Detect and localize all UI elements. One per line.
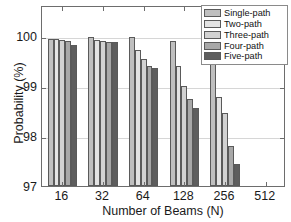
x-tick-label: 32	[95, 189, 109, 203]
x-axis-label: Number of Beams (N)	[41, 204, 285, 218]
legend-item[interactable]: Two-path	[204, 19, 285, 29]
legend-item[interactable]: Three-path	[204, 30, 285, 40]
legend-swatch	[204, 9, 221, 17]
y-axis-label: Probability (%)	[12, 28, 26, 178]
figure: 979899100 163264128256512 Probability (%…	[0, 0, 291, 222]
legend-swatch	[204, 52, 221, 60]
y-tick-label: 97	[0, 180, 37, 194]
legend-label: Five-path	[224, 51, 262, 61]
x-tick-label: 16	[54, 189, 68, 203]
legend-swatch	[204, 31, 221, 39]
x-tick-label: 128	[173, 189, 194, 203]
legend-label: Two-path	[224, 19, 262, 29]
x-tick-label: 512	[254, 189, 275, 203]
legend: Single-pathTwo-pathThree-pathFour-pathFi…	[201, 5, 288, 65]
legend-item[interactable]: Four-path	[204, 40, 285, 50]
legend-label: Three-path	[224, 30, 269, 40]
legend-label: Single-path	[224, 8, 270, 18]
legend-label: Four-path	[224, 41, 264, 51]
legend-item[interactable]: Single-path	[204, 8, 285, 18]
legend-swatch	[204, 20, 221, 28]
x-tick-label: 64	[136, 189, 150, 203]
legend-swatch	[204, 42, 221, 50]
legend-item[interactable]: Five-path	[204, 51, 285, 61]
x-tick-label: 256	[214, 189, 235, 203]
